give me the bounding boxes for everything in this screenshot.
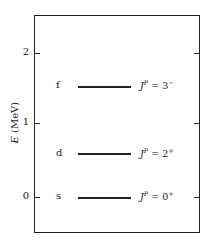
y-tick-2-left [34, 53, 40, 54]
jp-label-d: JP = 2+ [140, 147, 174, 159]
y-tick-label-0: 0 [17, 190, 29, 201]
orbital-label-s: s [56, 190, 61, 201]
energy-level-f [78, 86, 131, 88]
energy-level-s [78, 197, 131, 199]
jp-label-f: JP = 3− [140, 79, 174, 91]
y-tick-label-2: 2 [17, 46, 29, 57]
y-tick-0-left [34, 197, 40, 198]
y-tick-0-right [194, 197, 200, 198]
energy-level-d [78, 153, 131, 155]
orbital-label-d: d [56, 147, 62, 158]
y-tick-1-left [34, 123, 40, 124]
jp-label-s: JP = 0+ [140, 190, 174, 202]
y-axis-label: E (MeV) [9, 104, 20, 144]
y-tick-2-right [194, 53, 200, 54]
orbital-label-f: f [56, 79, 60, 90]
y-tick-1-right [194, 123, 200, 124]
